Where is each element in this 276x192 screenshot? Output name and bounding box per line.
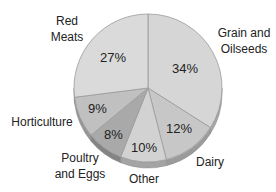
label-grain-and-oilseeds: Grain and Oilseeds	[212, 26, 276, 56]
slice-percent-grain: 34%	[172, 62, 198, 76]
label-dairy: Dairy	[192, 155, 228, 169]
label-poultry-and-eggs: Poultry and Eggs	[50, 151, 110, 181]
slice-percent-horticulture: 9%	[88, 102, 107, 116]
slice-percent-poultry: 8%	[104, 128, 123, 142]
slice-percent-dairy: 12%	[166, 122, 192, 136]
label-red-meats: Red Meats	[46, 14, 88, 44]
slice-percent-other: 10%	[131, 141, 157, 155]
slice-percent-redmeats: 27%	[100, 51, 126, 65]
label-horticulture: Horticulture	[8, 115, 76, 129]
label-other: Other	[126, 172, 162, 186]
